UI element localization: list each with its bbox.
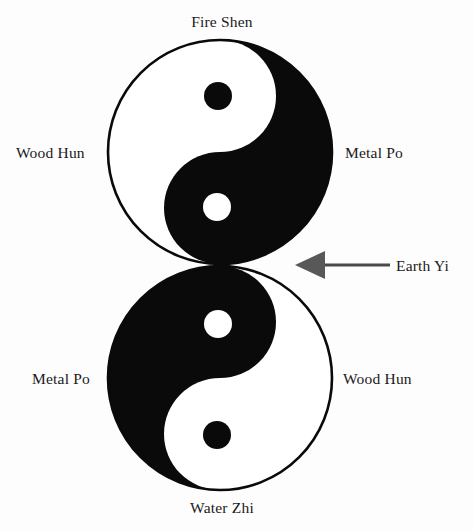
label-wood-hun-top: Wood Hun [16,145,85,161]
label-metal-po-top: Metal Po [345,145,403,161]
label-wood-hun-bottom: Wood Hun [343,371,412,387]
label-fire-shen: Fire Shen [191,14,253,30]
upper-light-dot [203,193,231,221]
pointer-arrowhead-icon [295,251,325,279]
upper-taijitu [108,40,332,264]
label-water-zhi: Water Zhi [190,500,254,516]
upper-dark-dot [204,82,232,110]
lower-light-dot [204,310,232,338]
lower-taijitu [108,266,332,490]
earth-yi-pointer [295,251,390,279]
label-earth-yi: Earth Yi [396,258,449,274]
label-metal-po-bottom: Metal Po [32,371,90,387]
lower-dark-dot [203,421,231,449]
figure-canvas: Fire Shen Wood Hun Metal Po Earth Yi Met… [0,0,474,531]
